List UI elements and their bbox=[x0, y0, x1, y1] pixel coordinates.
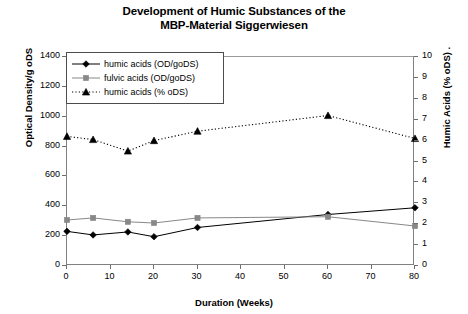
y-axis-left-tick-mark bbox=[62, 146, 66, 147]
data-point-marker bbox=[90, 232, 97, 239]
y-axis-left-tick-label: 0 bbox=[20, 259, 60, 269]
x-axis-tick-mark bbox=[284, 265, 285, 269]
data-point-marker bbox=[412, 204, 419, 211]
x-axis-tick-mark bbox=[327, 265, 328, 269]
y-axis-right-tick-label: 5 bbox=[422, 155, 452, 165]
data-point-marker bbox=[325, 214, 330, 219]
y-axis-right-tick-label: 3 bbox=[422, 196, 452, 206]
legend-item-label: fulvic acids (OD/goDS) bbox=[104, 73, 195, 83]
y-axis-right-tick-mark bbox=[414, 223, 418, 224]
data-point-marker bbox=[151, 220, 156, 225]
data-point-marker bbox=[125, 229, 132, 236]
chart-title-line2: MBP-Material Siggerwiesen bbox=[0, 18, 468, 32]
data-point-marker bbox=[124, 147, 131, 154]
data-point-marker bbox=[83, 61, 90, 68]
y-axis-left-tick-mark bbox=[62, 205, 66, 206]
y-axis-right-tick-label: 1 bbox=[422, 238, 452, 248]
series-line bbox=[67, 208, 415, 237]
series-3 bbox=[63, 112, 418, 154]
data-point-marker bbox=[194, 128, 201, 135]
data-point-marker bbox=[194, 224, 201, 231]
x-axis-tick-label: 70 bbox=[356, 271, 386, 281]
y-axis-right-tick-mark bbox=[414, 98, 418, 99]
y-axis-right-tick-mark bbox=[414, 119, 418, 120]
y-axis-left-tick-mark bbox=[62, 56, 66, 57]
x-axis-title: Duration (Weeks) bbox=[0, 297, 468, 308]
y-axis-right-tick-label: 10 bbox=[422, 50, 452, 60]
x-axis-tick-mark bbox=[197, 265, 198, 269]
data-point-marker bbox=[90, 136, 97, 143]
x-axis-tick-label: 60 bbox=[312, 271, 342, 281]
legend-item-2: fulvic acids (OD/goDS) bbox=[71, 71, 218, 85]
y-axis-right-tick-mark bbox=[414, 161, 418, 162]
y-axis-right-tick-label: 2 bbox=[422, 217, 452, 227]
y-axis-right-tick-label: 9 bbox=[422, 71, 452, 81]
x-axis-tick-mark bbox=[414, 265, 415, 269]
y-axis-right-tick-label: 6 bbox=[422, 134, 452, 144]
y-axis-left-tick-mark bbox=[62, 175, 66, 176]
data-point-marker bbox=[83, 75, 88, 80]
y-axis-left-tick-label: 1200 bbox=[20, 80, 60, 90]
data-point-marker bbox=[63, 133, 70, 140]
x-axis-tick-mark bbox=[66, 265, 67, 269]
chart-container: Development of Humic Substances of the M… bbox=[0, 0, 468, 314]
data-point-marker bbox=[324, 112, 331, 119]
chart-legend: humic acids (OD/goDS)fulvic acids (OD/go… bbox=[66, 52, 224, 104]
chart-title-line1: Development of Humic Substances of the bbox=[122, 5, 345, 17]
legend-marker-triangle-icon bbox=[71, 87, 101, 97]
x-axis-tick-mark bbox=[110, 265, 111, 269]
legend-item-1: humic acids (OD/goDS) bbox=[71, 57, 218, 71]
y-axis-right-tick-mark bbox=[414, 77, 418, 78]
y-axis-left-tick-mark bbox=[62, 86, 66, 87]
data-point-marker bbox=[64, 228, 71, 235]
legend-marker-square-icon bbox=[71, 73, 101, 83]
x-axis-tick-label: 0 bbox=[51, 271, 81, 281]
series-line bbox=[67, 217, 415, 226]
series-line bbox=[67, 116, 415, 152]
y-axis-right-tick-mark bbox=[414, 56, 418, 57]
x-axis-tick-label: 80 bbox=[399, 271, 429, 281]
data-point-marker bbox=[125, 219, 130, 224]
y-axis-right-tick-mark bbox=[414, 244, 418, 245]
x-axis-tick-mark bbox=[371, 265, 372, 269]
legend-item-3: humic acids (% oDS) bbox=[71, 85, 218, 99]
x-axis-tick-label: 40 bbox=[225, 271, 255, 281]
x-axis-tick-label: 10 bbox=[95, 271, 125, 281]
data-point-marker bbox=[150, 137, 157, 144]
y-axis-right-tick-mark bbox=[414, 181, 418, 182]
data-point-marker bbox=[91, 215, 96, 220]
data-point-marker bbox=[151, 233, 158, 240]
y-axis-right-tick-label: 8 bbox=[422, 92, 452, 102]
x-axis-tick-label: 50 bbox=[269, 271, 299, 281]
y-axis-left-tick-mark bbox=[62, 116, 66, 117]
x-axis-tick-mark bbox=[240, 265, 241, 269]
chart-title: Development of Humic Substances of the M… bbox=[0, 4, 468, 32]
y-axis-left-tick-label: 1400 bbox=[20, 50, 60, 60]
y-axis-right-tick-label: 4 bbox=[422, 175, 452, 185]
data-point-marker bbox=[82, 88, 89, 95]
series-2 bbox=[64, 214, 417, 228]
y-axis-right-tick-mark bbox=[414, 202, 418, 203]
y-axis-right-tick-mark bbox=[414, 140, 418, 141]
data-point-marker bbox=[64, 217, 69, 222]
x-axis-tick-label: 30 bbox=[182, 271, 212, 281]
legend-item-label: humic acids (% oDS) bbox=[104, 87, 188, 97]
y-axis-left-tick-label: 1000 bbox=[20, 110, 60, 120]
y-axis-left-tick-label: 800 bbox=[20, 140, 60, 150]
x-axis-tick-label: 20 bbox=[138, 271, 168, 281]
legend-item-label: humic acids (OD/goDS) bbox=[104, 59, 199, 69]
y-axis-left-tick-mark bbox=[62, 235, 66, 236]
y-axis-right-tick-label: 7 bbox=[422, 113, 452, 123]
y-axis-right-tick-label: 0 bbox=[422, 259, 452, 269]
x-axis-tick-mark bbox=[153, 265, 154, 269]
y-axis-left-tick-label: 600 bbox=[20, 169, 60, 179]
legend-marker-diamond-icon bbox=[71, 59, 101, 69]
data-point-marker bbox=[195, 215, 200, 220]
series-1 bbox=[64, 204, 419, 240]
y-axis-left-tick-label: 200 bbox=[20, 229, 60, 239]
y-axis-left-tick-label: 400 bbox=[20, 199, 60, 209]
